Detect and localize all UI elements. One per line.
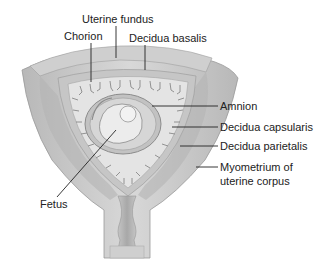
label-fetus: Fetus xyxy=(40,198,68,210)
label-decidua-parietalis: Decidua parietalis xyxy=(220,140,307,152)
label-decidua-capsularis: Decidua capsularis xyxy=(220,121,313,133)
label-chorion: Chorion xyxy=(64,30,103,42)
cervix xyxy=(118,196,136,250)
label-uterine-fundus: Uterine fundus xyxy=(82,13,154,25)
uterus-diagram: Uterine fundus Chorion Decidua basalis A… xyxy=(0,0,320,262)
label-amnion: Amnion xyxy=(220,100,257,112)
label-myometrium-line2: uterine corpus xyxy=(220,175,290,187)
label-decidua-basalis: Decidua basalis xyxy=(129,32,207,44)
label-myometrium-line1: Myometrium of xyxy=(220,161,293,173)
